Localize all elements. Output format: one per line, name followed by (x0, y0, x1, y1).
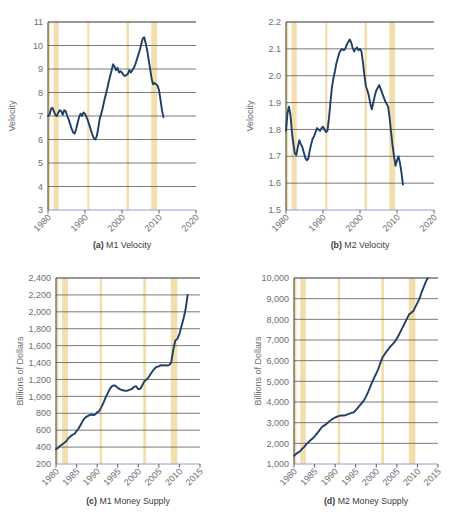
x-axis-tick-label: 1995 (101, 466, 122, 487)
y-axis-tick-label: 10 (33, 41, 43, 51)
x-axis-tick-label: 2010 (163, 466, 184, 487)
y-axis-tick-label: 6,000 (266, 356, 289, 366)
y-axis-tick-label: 1.5 (268, 205, 281, 215)
y-axis-tick-label: 1.7 (268, 151, 281, 161)
x-axis-tick-label: 1990 (307, 212, 328, 233)
x-axis-tick-label: 1980 (40, 466, 61, 487)
x-axis-tick-label: 1985 (60, 466, 81, 487)
recession-band (409, 278, 416, 464)
y-axis-tick-label: 2,200 (28, 290, 51, 300)
x-axis-tick-label: 1985 (298, 466, 319, 487)
panel-m1-money-supply-plot: 2004006008001,0001,2001,4001,6001,8002,0… (0, 256, 234, 512)
x-axis-tick-label: 1980 (32, 212, 53, 233)
y-axis-title: Billions of Dollars (15, 336, 25, 406)
y-axis-tick-label: 6 (38, 135, 43, 145)
x-axis-tick-label: 1990 (69, 212, 90, 233)
y-axis-tick-label: 5,000 (266, 377, 289, 387)
y-axis-tick-label: 400 (36, 442, 51, 452)
y-axis-tick-label: 9 (38, 64, 43, 74)
x-axis-tick-label: 2010 (143, 212, 164, 233)
y-axis-title: Billions of Dollars (253, 336, 263, 406)
y-axis-tick-label: 200 (36, 459, 51, 469)
x-axis-tick-label: 2005 (143, 466, 164, 487)
data-series-line (48, 37, 163, 139)
data-series-line (56, 295, 188, 449)
panel-caption-prefix: (d) (324, 496, 338, 506)
y-axis-tick-label: 1,400 (28, 358, 51, 368)
y-axis-tick-label: 8 (38, 88, 43, 98)
recession-band (100, 278, 102, 464)
y-axis-tick-label: 1,800 (28, 324, 51, 334)
y-axis-tick-label: 2,000 (266, 439, 289, 449)
y-axis-tick-label: 600 (36, 425, 51, 435)
y-axis-tick-label: 2.2 (268, 17, 281, 27)
recession-band (338, 278, 340, 464)
x-axis-tick-label: 2000 (360, 466, 381, 487)
y-axis-tick-label: 1.8 (268, 125, 281, 135)
y-axis-tick-label: 1.6 (268, 178, 281, 188)
y-axis-tick-label: 4 (38, 182, 43, 192)
x-axis-tick-label: 2010 (401, 466, 422, 487)
x-axis-tick-label: 1980 (270, 212, 291, 233)
panel-caption: (b) M2 Velocity (331, 240, 390, 250)
y-axis-tick-label: 800 (36, 408, 51, 418)
y-axis-tick-label: 2,000 (28, 307, 51, 317)
y-axis-tick-label: 9,000 (266, 294, 289, 304)
panel-m2-money-supply: 1,0002,0003,0004,0005,0006,0007,0008,000… (234, 256, 468, 512)
panel-caption-title: M1 Money Supply (99, 496, 170, 506)
panel-m2-money-supply-plot: 1,0002,0003,0004,0005,0006,0007,0008,000… (234, 256, 468, 512)
recession-band (171, 278, 178, 464)
y-axis-title: Velocity (245, 100, 255, 132)
y-axis-tick-label: 3,000 (266, 418, 289, 428)
panel-caption: (d) M2 Money Supply (324, 496, 409, 506)
x-axis-tick-label: 2020 (418, 212, 439, 233)
recession-band (325, 22, 327, 210)
x-axis-tick-label: 2000 (344, 212, 365, 233)
x-axis-tick-label: 1990 (319, 466, 340, 487)
x-axis-tick-label: 2020 (180, 212, 201, 233)
panel-caption: (c) M1 Money Supply (86, 496, 170, 506)
y-axis-tick-label: 2.1 (268, 44, 281, 54)
x-axis-tick-label: 2005 (381, 466, 402, 487)
panel-caption: (a) M1 Velocity (93, 240, 152, 250)
panel-m2-velocity: 1.51.61.71.81.92.02.12.21980199020002010… (234, 0, 468, 256)
x-axis-tick-label: 2000 (122, 466, 143, 487)
y-axis-title: Velocity (7, 100, 17, 132)
y-axis-tick-label: 1,200 (28, 375, 51, 385)
data-series-line (294, 278, 428, 456)
recession-band (381, 278, 384, 464)
y-axis-tick-label: 10,000 (261, 273, 289, 283)
recession-band (292, 22, 297, 210)
y-axis-tick-label: 1,000 (28, 392, 51, 402)
y-axis-tick-label: 4,000 (266, 397, 289, 407)
panel-m1-velocity-plot: 3456789101119801990200020102020Velocity(… (0, 0, 234, 256)
y-axis-tick-label: 11 (34, 17, 43, 27)
x-axis-tick-label: 2015 (422, 466, 443, 487)
x-axis-tick-label: 1995 (339, 466, 360, 487)
panel-caption-title: M2 Money Supply (338, 496, 409, 506)
y-axis-tick-label: 2.0 (268, 71, 281, 81)
y-axis-tick-label: 7 (38, 111, 43, 121)
panel-m2-velocity-plot: 1.51.61.71.81.92.02.12.21980199020002010… (234, 0, 468, 256)
y-axis-tick-label: 7,000 (266, 335, 289, 345)
panel-caption-prefix: (b) (331, 240, 345, 250)
recession-band (364, 22, 367, 210)
y-axis-tick-label: 8,000 (266, 315, 289, 325)
panel-m1-money-supply: 2004006008001,0001,2001,4001,6001,8002,0… (0, 256, 234, 512)
x-axis-tick-label: 1990 (81, 466, 102, 487)
four-panel-money-velocity-figure: 3456789101119801990200020102020Velocity(… (0, 0, 468, 512)
x-axis-tick-label: 1980 (278, 466, 299, 487)
panel-caption-prefix: (c) (86, 496, 99, 506)
data-series-line (286, 39, 403, 184)
recession-band (62, 278, 68, 464)
y-axis-tick-label: 5 (38, 158, 43, 168)
panel-caption-prefix: (a) (93, 240, 106, 250)
y-axis-tick-label: 1,000 (266, 459, 289, 469)
recession-band (143, 278, 146, 464)
x-axis-tick-label: 2000 (106, 212, 127, 233)
y-axis-tick-label: 3 (38, 205, 43, 215)
x-axis-tick-label: 2010 (381, 212, 402, 233)
panel-caption-title: M1 Velocity (106, 240, 152, 250)
y-axis-tick-label: 1,600 (28, 341, 51, 351)
panel-caption-title: M2 Velocity (344, 240, 390, 250)
